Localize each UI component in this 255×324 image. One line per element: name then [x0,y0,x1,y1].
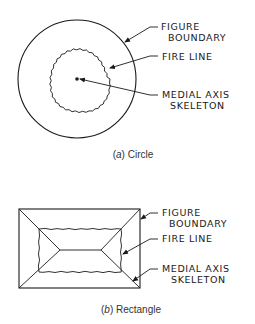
rect-medial-axis-skeleton-lower [19,250,60,288]
medial-axis-diagram: FIGURE BOUNDARY FIRE LINE MEDIAL AXIS SK… [0,0,255,324]
circle-fire-line [50,49,111,113]
caption-a-text: Circle [125,149,154,160]
leader-medial-axis-b [133,269,158,281]
label-medial-b-2: SKELETON [171,274,226,285]
rect-medial-axis-skeleton [19,209,140,250]
circle-medial-axis-point [75,77,79,81]
leader-figure-boundary-b [141,213,158,219]
leader-figure-boundary-a [125,27,158,42]
panel-rectangle: FIGURE BOUNDARY FIRE LINE MEDIAL AXIS SK… [19,207,230,315]
caption-b-text: Rectangle [113,304,161,315]
caption-a-letter: a [116,149,122,160]
leader-medial-axis-a [80,79,158,95]
label-medial-a-1: MEDIAL AXIS [162,89,230,100]
label-figure-b-2: BOUNDARY [169,218,227,229]
rect-fire-line [38,228,121,272]
panel-circle: FIGURE BOUNDARY FIRE LINE MEDIAL AXIS SK… [18,20,230,160]
label-figure-b-1: FIGURE [162,207,201,218]
label-fire-line-a: FIRE LINE [162,51,213,62]
caption-b: (b) Rectangle [101,304,161,315]
label-figure-a-2: BOUNDARY [168,32,226,43]
rect-figure-boundary [19,209,140,288]
caption-b-letter: b [104,304,110,315]
label-figure-a-1: FIGURE [161,21,200,32]
label-medial-b-1: MEDIAL AXIS [162,263,230,274]
rect-medial-axis-br [101,250,140,288]
label-medial-a-2: SKELETON [170,100,225,111]
caption-a: (a) Circle [113,149,154,160]
label-fire-line-b: FIRE LINE [162,233,213,244]
